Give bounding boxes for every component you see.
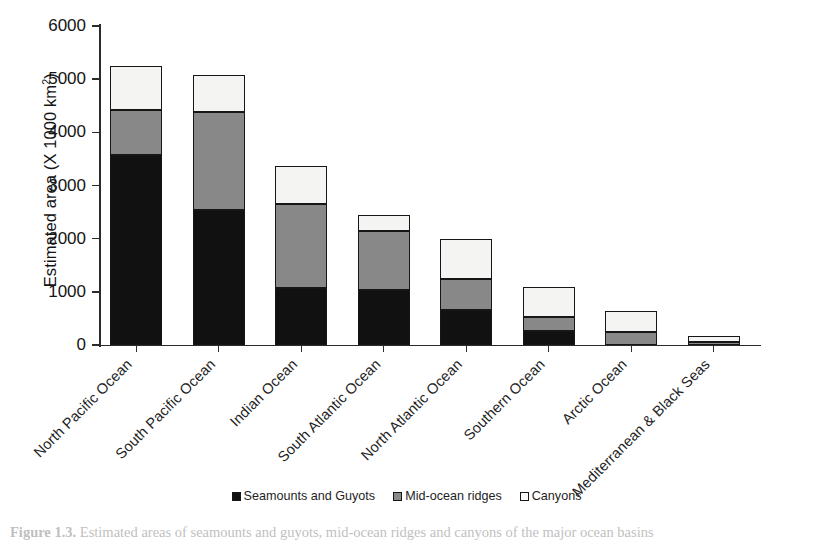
bar-segment[interactable] [275,288,327,345]
x-axis-tick [466,346,467,352]
legend-item-label: Mid-ocean ridges [405,489,502,503]
bar-segment[interactable] [110,110,162,155]
y-axis-tick-label: 2000 [20,230,86,247]
bar-segment[interactable] [193,210,245,345]
bar-segment[interactable] [440,310,492,345]
bar-segment[interactable] [193,112,245,210]
black-square-icon [232,492,241,501]
y-axis-tick [92,185,100,186]
bar-segment[interactable] [605,311,657,332]
x-axis-tick [136,346,137,352]
y-axis-tick-label: 4000 [20,123,86,140]
bar-segment[interactable] [358,290,410,345]
stacked-bar[interactable] [275,26,327,345]
stacked-bar[interactable] [110,26,162,345]
x-axis-tick [301,346,302,352]
y-axis-tick [92,344,100,345]
x-axis-tick [631,346,632,352]
bar-segment[interactable] [688,336,740,342]
stacked-bar[interactable] [193,26,245,345]
bar-segment[interactable] [358,231,410,290]
bar-segment[interactable] [523,331,575,345]
stacked-bar[interactable] [523,26,575,345]
x-axis-label: Southern Ocean [460,356,547,443]
stacked-bar[interactable] [688,26,740,345]
bar-segment[interactable] [358,215,410,231]
stacked-bar[interactable] [358,26,410,345]
x-axis-label: Mediterranean & Black Seas [569,356,713,500]
y-axis-tick-label: 1000 [20,283,86,300]
bar-segment[interactable] [275,166,327,204]
figure-caption-number: Figure 1.3. [10,524,76,540]
y-axis-tick [92,78,100,79]
bar-segment[interactable] [523,287,575,317]
y-axis-tick [92,238,100,239]
figure-root: Estimated area (X 1000 km2) 010002000300… [0,0,813,542]
bar-segment[interactable] [440,239,492,279]
bar-segment[interactable] [605,332,657,345]
bar-segment[interactable] [193,75,245,112]
bar-segment[interactable] [440,279,492,311]
y-axis-tick-label: 5000 [20,70,86,87]
bar-segment[interactable] [523,317,575,331]
x-axis-tick [713,346,714,352]
chart-legend: Seamounts and GuyotsMid-ocean ridgesCany… [0,489,813,503]
x-axis-tick [218,346,219,352]
x-axis-label: Arctic Ocean [559,356,630,427]
figure-caption-text: Estimated areas of seamounts and guyots,… [80,524,654,540]
figure-caption: Figure 1.3. Estimated areas of seamounts… [10,524,805,541]
legend-item-label: Seamounts and Guyots [244,489,376,503]
y-axis-tick-label: 0 [20,336,86,353]
legend-item[interactable]: Canyons [520,489,582,503]
x-axis-tick [383,346,384,352]
stacked-bar[interactable] [440,26,492,345]
bar-segment[interactable] [688,342,740,345]
legend-item[interactable]: Mid-ocean ridges [393,489,502,503]
white-square-icon [520,492,529,501]
stacked-bar[interactable] [605,26,657,345]
x-axis-label: Indian Ocean [227,356,301,430]
legend-item-label: Canyons [532,489,582,503]
gray-square-icon [393,492,402,501]
bar-segment[interactable] [110,155,162,345]
bar-segment[interactable] [275,204,327,288]
y-axis-tick [92,25,100,26]
y-axis-tick-label: 6000 [20,17,86,34]
y-axis-tick [92,291,100,292]
y-axis-tick [92,132,100,133]
bar-segment[interactable] [110,66,162,110]
y-axis-tick-label: 3000 [20,177,86,194]
legend-item[interactable]: Seamounts and Guyots [232,489,376,503]
x-axis-tick [548,346,549,352]
